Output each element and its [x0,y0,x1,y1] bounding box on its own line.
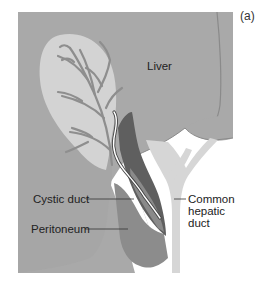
peritoneum-label: Peritoneum [31,223,90,235]
common-hepatic-duct-label-2: hepatic [188,205,225,217]
common-hepatic-duct-label-1: Common [188,193,235,205]
panel-label: (a) [240,9,255,23]
common-hepatic-duct-label-3: duct [188,217,211,229]
liver-label: Liver [147,60,172,72]
gallbladder-anatomy-diagram: Liver Cystic duct Peritoneum Common hepa… [0,0,268,289]
cystic-duct-label: Cystic duct [33,193,90,205]
